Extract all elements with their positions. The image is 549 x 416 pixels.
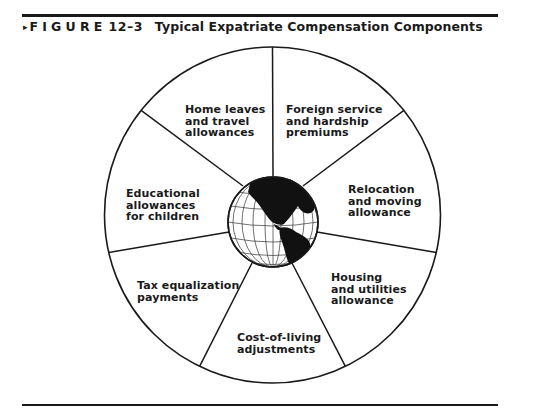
segment-home-leaves: Home leaves and travel allowances [185, 104, 265, 139]
globe-icon [228, 177, 318, 268]
segment-educational: Educational allowances for children [126, 188, 200, 223]
segment-tax-equalization: Tax equalization payments [137, 280, 239, 303]
segment-cost-of-living: Cost-of-living adjustments [237, 332, 321, 355]
bottom-rule [22, 404, 498, 406]
segment-relocation: Relocation and moving allowance [348, 184, 422, 219]
segment-housing: Housing and utilities allowance [331, 272, 407, 307]
segment-foreign-service: Foreign service and hardship premiums [286, 104, 383, 139]
